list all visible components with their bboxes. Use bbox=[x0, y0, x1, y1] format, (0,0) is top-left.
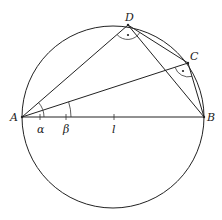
label-C: C bbox=[190, 50, 199, 63]
geometry-diagram: A B C D α β l bbox=[0, 0, 222, 220]
segment-CB bbox=[188, 63, 204, 117]
label-beta: β bbox=[62, 123, 69, 136]
label-A: A bbox=[9, 111, 18, 124]
right-angle-dot-C bbox=[182, 70, 184, 72]
point-B bbox=[203, 116, 205, 118]
angle-arc-alpha bbox=[39, 103, 44, 117]
label-B: B bbox=[206, 111, 215, 124]
right-angle-dot-D bbox=[127, 34, 129, 36]
segment-DB bbox=[128, 25, 204, 117]
label-alpha: α bbox=[37, 123, 45, 136]
point-C bbox=[187, 62, 189, 64]
label-l: l bbox=[112, 123, 116, 136]
segment-DC bbox=[128, 25, 188, 63]
angle-arc-beta bbox=[69, 102, 71, 117]
segment-AC bbox=[22, 63, 188, 117]
point-A bbox=[21, 116, 23, 118]
point-D bbox=[127, 24, 129, 26]
label-D: D bbox=[124, 11, 134, 24]
segment-AD bbox=[22, 25, 128, 117]
